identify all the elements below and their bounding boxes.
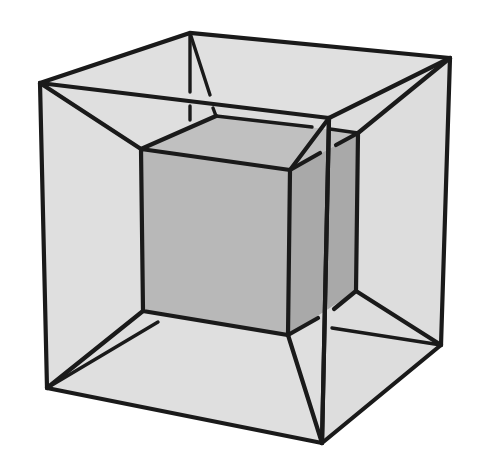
tesseract-diagram [0,0,477,471]
inner-back-right-edge [356,133,358,291]
inner-front-face [141,149,290,335]
